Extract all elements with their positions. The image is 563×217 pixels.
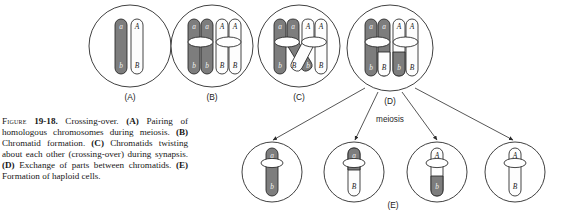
figure-number: 19-18. (27, 116, 58, 126)
allele-label: A (512, 151, 518, 160)
centromere-dark-d (365, 37, 390, 47)
crossing-over-diagram: a A b B (A) a a A A b b B B (B) (0, 0, 563, 217)
caption-text-d: Exchange of parts between chromatids. (19, 160, 171, 170)
allele-label: B (410, 63, 415, 72)
meiosis-arrow-1 (273, 88, 365, 140)
panel-label-b: (B) (206, 92, 217, 102)
allele-label: A (434, 151, 440, 160)
allele-label: a (205, 22, 209, 31)
centromere-light-c (302, 37, 327, 47)
caption-marker-a: (A) (126, 116, 139, 126)
allele-label: A (219, 22, 225, 31)
allele-label: a (382, 22, 386, 31)
allele-label: b (435, 182, 439, 191)
caption-text-e: Formation of haploid cells. (2, 171, 101, 181)
allele-label: B (292, 61, 297, 70)
allele-label: A (305, 22, 311, 31)
haploid-cell-1: a b (242, 142, 302, 202)
allele-label: b (205, 61, 209, 70)
meiosis-arrow-2 (355, 92, 378, 140)
panel-b: a a A A b b B B (B) (171, 5, 253, 102)
caption-marker-b: (B) (176, 127, 188, 137)
panel-c: a a A A b B b B (C) (258, 5, 340, 102)
allele-label: B (382, 63, 387, 72)
caption-marker-e: (E) (176, 160, 188, 170)
allele-label: a (119, 22, 123, 31)
allele-label: a (369, 22, 373, 31)
allele-label: a (192, 22, 196, 31)
allele-label: B (352, 182, 357, 191)
figure-container: a A b B (A) a a A A b b B B (B) (0, 0, 563, 217)
allele-label: A (396, 22, 402, 31)
meiosis-arrow-3 (402, 92, 437, 140)
cell-membrane-a (89, 5, 171, 87)
caption-marker-c: (C) (91, 138, 104, 148)
allele-label: a (352, 151, 356, 160)
allele-label: A (232, 22, 238, 31)
caption-marker-d: (D) (2, 160, 15, 170)
allele-label: b (278, 61, 282, 70)
allele-label: b (397, 63, 401, 72)
allele-label: A (318, 22, 324, 31)
panel-e-haploid-cells: a b a B A b (242, 142, 545, 210)
panel-a: a A b B (A) (89, 5, 171, 102)
allele-label: A (409, 22, 415, 31)
panel-label-c: (C) (293, 92, 305, 102)
centromere-dark-c (275, 37, 300, 47)
centromere-light-b (216, 37, 241, 47)
allele-label: b (192, 61, 196, 70)
allele-label: B (220, 61, 225, 70)
centromere-dark-b (188, 37, 213, 47)
figure-word: Figure (2, 116, 27, 126)
meiosis-label: meiosis (376, 115, 404, 124)
figure-caption: Figure 19-18. Crossing-over. (A) Pairing… (2, 116, 188, 183)
allele-label: A (134, 22, 140, 31)
centromere-light-d (393, 37, 418, 47)
allele-label: a (291, 22, 295, 31)
allele-label: a (278, 22, 282, 31)
haploid-cell-2: a B (324, 142, 384, 202)
allele-label: b (270, 182, 274, 191)
panel-label-d: (D) (384, 96, 396, 106)
allele-label: b (369, 63, 373, 72)
allele-label: a (270, 151, 274, 160)
allele-label: B (513, 182, 518, 191)
allele-label: B (233, 61, 238, 70)
caption-text-b: Chromatid formation. (2, 138, 85, 148)
meiosis-arrow-4 (415, 88, 513, 140)
panel-label-e: (E) (387, 200, 398, 210)
haploid-cell-3: A b (407, 142, 467, 202)
allele-label: b (306, 61, 310, 70)
haploid-cell-4: A B (485, 142, 545, 202)
allele-label: B (319, 61, 324, 70)
figure-title: Crossing-over. (65, 116, 118, 126)
allele-label: B (135, 61, 140, 70)
allele-label: b (119, 61, 123, 70)
panel-label-a: (A) (124, 92, 135, 102)
